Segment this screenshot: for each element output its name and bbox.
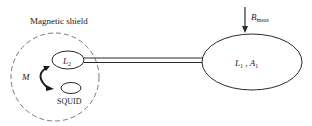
field-arrow-head-icon <box>242 26 248 33</box>
mutual-inductance-label: M <box>21 72 30 82</box>
shield-label: Magnetic shield <box>30 16 88 26</box>
field-label: Bmeas <box>251 12 269 23</box>
squid-label: SQUID <box>57 97 82 106</box>
squid-loop <box>61 83 81 94</box>
mutual-inductance-arrow <box>40 68 48 88</box>
pickup-loop-label: L1 , A1 <box>234 58 258 69</box>
mutual-arrow-head-bottom-icon <box>46 85 54 91</box>
squid-magnetometer-diagram: Magnetic shield L2 L1 , A1 Bmeas SQUID M <box>0 0 312 126</box>
